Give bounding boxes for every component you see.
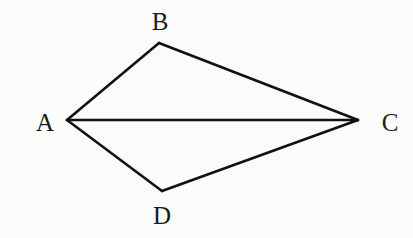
edge-bc [159, 43, 358, 120]
edge-ab [67, 43, 159, 120]
edge-cd [162, 120, 358, 191]
vertex-label-b: B [152, 8, 169, 35]
vertex-labels: A B C D [36, 8, 398, 229]
edge-da [67, 120, 162, 191]
kite-diagram: A B C D [0, 0, 413, 238]
edges [67, 43, 358, 191]
vertex-label-a: A [36, 109, 54, 136]
vertex-label-c: C [382, 109, 399, 136]
vertex-label-d: D [153, 202, 171, 229]
